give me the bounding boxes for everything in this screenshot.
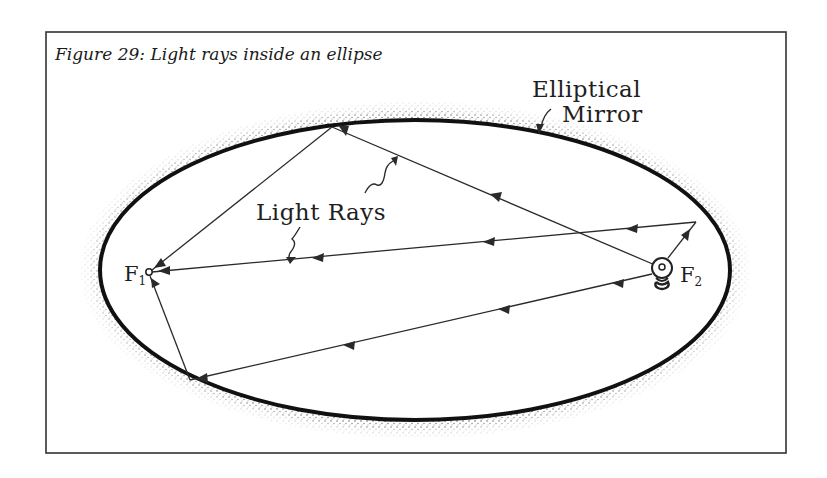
elliptical-mirror [100,120,730,420]
mirror-label-line2: Mirror [562,101,643,127]
light-bulb-icon [652,258,672,289]
focus-f1-point [146,269,152,275]
ellipse-light-rays-figure: Figure 29: Light rays inside an ellipse [0,0,827,478]
mirror-label-line1: Elliptical [532,76,641,102]
rays-label: Light Rays [256,199,386,225]
figure-caption: Figure 29: Light rays inside an ellipse [54,44,383,64]
